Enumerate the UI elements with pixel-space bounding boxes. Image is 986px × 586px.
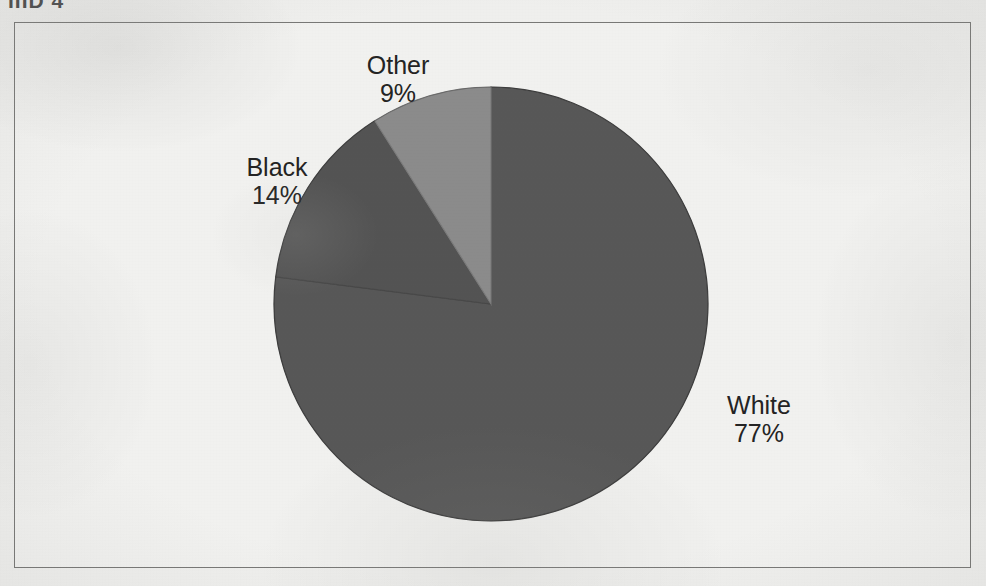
pie-label-white-value: 77% (659, 419, 859, 447)
pie-label-white: White 77% (659, 391, 859, 447)
scanned-page: IIID 4 (0, 0, 986, 586)
pie-label-other: Other 9% (303, 51, 493, 107)
pie-chart-svg (15, 23, 972, 569)
pie-label-black-category: Black (187, 153, 367, 181)
pie-label-other-category: Other (303, 51, 493, 79)
pie-label-other-value: 9% (303, 79, 493, 107)
pie-label-black-value: 14% (187, 181, 367, 209)
chart-frame: Other 9% Black 14% White 77% (14, 22, 971, 568)
pie-label-white-category: White (659, 391, 859, 419)
pie-label-black: Black 14% (187, 153, 367, 209)
clipped-header-text: IIID 4 (8, 0, 168, 12)
pie-plot-area: Other 9% Black 14% White 77% (15, 23, 970, 567)
clipped-header-label: IIID 4 (8, 0, 168, 12)
